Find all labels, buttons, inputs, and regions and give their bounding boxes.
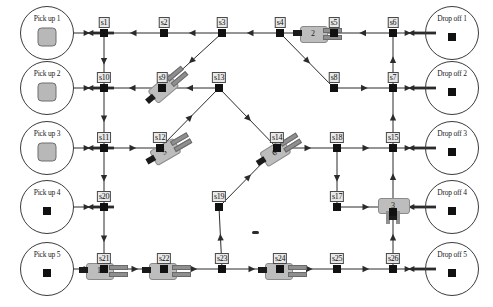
node-label-s5: s5 [329,17,340,28]
arrowhead [390,234,396,241]
load-marker-icon [448,207,456,215]
node-label-s22: s22 [157,253,171,264]
node-label-s20: s20 [97,191,111,202]
node-marker-s9[interactable] [158,84,166,92]
arrowhead [247,30,254,36]
machine-arm [172,265,191,270]
node-label-s13: s13 [212,72,226,83]
node-label-s17: s17 [330,191,344,202]
machine-arm [288,272,307,277]
pickup-2[interactable]: Pick up 2 [20,61,74,115]
arrowhead-reverse [84,30,90,36]
node-marker-s7[interactable] [389,84,397,92]
stray-mark [252,231,259,234]
node-marker-s1[interactable] [100,29,108,37]
arrowhead-reverse [405,85,411,91]
arrowhead [304,145,311,151]
pickup-1-label: Pick up 1 [34,14,61,23]
dropoff-4[interactable]: Drop off 4 [425,180,479,234]
node-marker-s13[interactable] [215,84,223,92]
node-label-s14: s14 [270,132,284,143]
pallet-icon [38,82,57,101]
pickup-3[interactable]: Pick up 3 [20,121,74,175]
arrowhead [334,175,340,182]
node-marker-s5[interactable] [330,29,338,37]
node-marker-s18[interactable] [333,144,341,152]
node-marker-s26[interactable] [389,265,397,273]
dropoff-2[interactable]: Drop off 2 [425,61,479,115]
network-edges-layer [0,0,493,307]
node-marker-s12[interactable] [156,144,164,152]
arrowhead-reverse [84,204,90,210]
arrowhead [217,234,223,241]
machine-arm [109,265,128,270]
arrowhead [362,145,369,151]
machine-2[interactable]: 2 [300,26,326,41]
pickup-4[interactable]: Pick up 4 [20,180,74,234]
diagram-canvas: Pick up 1Pick up 2Pick up 3Pick up 4Pick… [0,0,493,307]
pickup-1[interactable]: Pick up 1 [20,6,74,60]
machine-chuck [142,267,151,273]
arrowhead-reverse [405,266,411,272]
node-marker-s10[interactable] [100,84,108,92]
pickup-3-label: Pick up 3 [34,129,61,138]
arrowhead [362,204,369,210]
node-label-s1: s1 [99,17,110,28]
dropoff-1-label: Drop off 1 [437,14,467,23]
node-marker-s3[interactable] [218,29,226,37]
node-label-s3: s3 [217,17,228,28]
machine-1[interactable]: 1 [86,263,112,278]
pickup-5-label: Pick up 5 [34,250,61,259]
node-label-s21: s21 [97,253,111,264]
node-marker-s23[interactable] [218,265,226,273]
node-marker-s11[interactable] [100,144,108,152]
node-marker-s22[interactable] [160,265,168,273]
arrowhead [390,114,396,121]
arrowhead [131,266,138,272]
node-label-s23: s23 [215,253,229,264]
node-marker-s14[interactable] [273,144,281,152]
dropoff-1[interactable]: Drop off 1 [425,6,479,60]
arrowhead-reverse [405,145,411,151]
node-label-s8: s8 [329,72,340,83]
arrowhead [362,266,369,272]
node-label-s10: s10 [97,72,111,83]
node-marker-m3[interactable] [389,208,397,216]
dropoff-3[interactable]: Drop off 3 [425,121,479,175]
node-marker-s6[interactable] [389,29,397,37]
node-marker-s17[interactable] [333,203,341,211]
arrowhead-reverse [405,30,411,36]
node-label-s24: s24 [273,253,287,264]
node-label-s25: s25 [330,253,344,264]
arrowhead [359,30,366,36]
machine-chuck [258,267,267,273]
node-label-s26: s26 [386,253,400,264]
machine-number-label: 2 [311,29,315,38]
node-marker-s15[interactable] [389,144,397,152]
node-marker-s2[interactable] [160,29,168,37]
arrowhead-reverse [84,85,90,91]
arrowhead [101,235,107,242]
pallet-icon [38,27,57,46]
arrowhead [129,85,136,91]
dropoff-5[interactable]: Drop off 5 [425,242,479,296]
node-marker-s8[interactable] [330,84,338,92]
node-marker-s21[interactable] [100,265,108,273]
node-label-s6: s6 [388,17,399,28]
machine-arm [288,265,307,270]
arrowhead [248,266,255,272]
arrowhead [130,30,137,36]
node-label-s19: s19 [212,191,226,202]
arrowhead [101,115,107,122]
machine-arm [109,272,128,277]
arrowhead [390,56,396,63]
node-marker-s19[interactable] [215,203,223,211]
arrowhead [186,85,193,91]
node-label-s7: s7 [388,72,399,83]
pickup-5[interactable]: Pick up 5 [20,242,74,296]
node-marker-s25[interactable] [333,265,341,273]
node-marker-s4[interactable] [276,29,284,37]
node-marker-s20[interactable] [100,203,108,211]
arrowhead [129,145,136,151]
node-marker-s24[interactable] [276,265,284,273]
